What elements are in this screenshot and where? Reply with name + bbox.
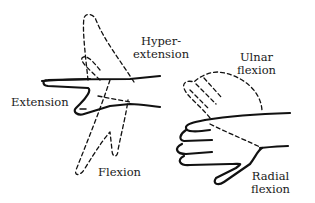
hyperextension-hand-outline xyxy=(83,14,134,82)
hyperextension-label: Hyper- extension xyxy=(133,35,189,61)
right-hand-figure xyxy=(177,72,290,184)
flexion-label: Flexion xyxy=(98,166,141,179)
ulnar-flexion-label: Ulnar flexion xyxy=(237,51,276,77)
extension-label: Extension xyxy=(11,96,69,109)
right-forearm-top-line xyxy=(205,113,290,120)
radial-flexion-hand-outline xyxy=(177,120,262,184)
radial-flexion-label: Radial flexion xyxy=(251,170,290,196)
flexion-hand-outline xyxy=(76,80,128,175)
ulnar-flexion-hand-outline xyxy=(184,72,262,118)
